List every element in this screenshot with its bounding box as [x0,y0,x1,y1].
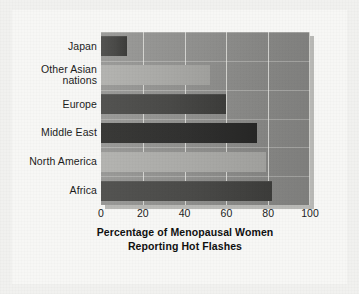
x-axis-title: Percentage of Menopausal Women Reporting… [40,226,330,253]
y-axis-label: Middle East [8,127,97,138]
x-tick-label-80: 80 [262,207,274,219]
y-axis-label-line: North America [8,156,97,167]
bar [101,181,272,201]
y-axis-label: Japan [8,41,97,52]
y-axis-label-line: nations [8,75,97,86]
x-axis-title-line-1: Percentage of Menopausal Women [40,226,330,240]
x-axis-title-line-2: Reporting Hot Flashes [40,240,330,254]
bar [101,152,266,172]
x-tick-label-20: 20 [137,207,149,219]
x-axis-tick-labels: 020406080100 [101,207,310,221]
y-axis-label: Europe [8,99,97,110]
y-axis-label-line: Middle East [8,127,97,138]
y-axis-label: Other Asiannations [8,64,97,86]
category-band [101,32,310,61]
bar [101,123,257,143]
y-axis-category-labels: JapanOther AsiannationsEuropeMiddle East… [8,32,97,205]
bar [101,94,226,114]
y-axis-label: North America [8,156,97,167]
x-tick-label-60: 60 [221,207,233,219]
y-axis-label-line: Japan [8,41,97,52]
y-axis-label: Africa [8,185,97,196]
plot-wrap [101,32,310,205]
y-axis-label-line: Europe [8,99,97,110]
plot-area [101,32,310,205]
x-tick-label-100: 100 [301,207,319,219]
x-tick-label-40: 40 [179,207,191,219]
x-tick-label-0: 0 [98,207,104,219]
y-axis-label-line: Africa [8,185,97,196]
bar [101,65,210,85]
bar [101,36,127,56]
chart-figure: JapanOther AsiannationsEuropeMiddle East… [0,0,359,294]
